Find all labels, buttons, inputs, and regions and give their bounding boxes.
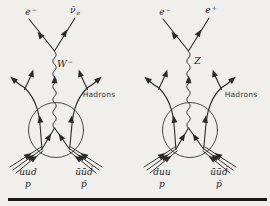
z-boson-label: Z: [194, 56, 202, 66]
right-antiquarks-label: ūūd̄: [210, 168, 227, 177]
left-antineutrino-label: ν̄e: [70, 6, 80, 15]
left-antiproton-label: p̄: [81, 180, 87, 189]
left-hadrons-label: Hadrons: [83, 91, 116, 99]
w-boson-label: W−: [57, 59, 73, 69]
right-electron-label: e−: [159, 8, 170, 17]
bottom-rule: [8, 198, 267, 201]
right-proton-label: p: [159, 180, 165, 189]
left-antiquarks-label: ūūd̄: [75, 168, 92, 177]
diagram-line-art: [0, 0, 270, 206]
left-proton-label: p: [25, 180, 31, 189]
left-uud-label: uud: [19, 168, 36, 177]
left-electron-label: e−: [25, 8, 36, 17]
feynman-diagram-figure: e− ν̄e W− Hadrons uud p ūūd̄ p̄ e− e+ …: [0, 0, 270, 206]
right-positron-label: e+: [205, 6, 216, 15]
right-diagram-art: [142, 18, 237, 173]
right-antiproton-label: p̄: [216, 180, 222, 189]
right-duu-label: duu: [153, 168, 170, 177]
right-hadrons-label: Hadrons: [225, 91, 258, 99]
